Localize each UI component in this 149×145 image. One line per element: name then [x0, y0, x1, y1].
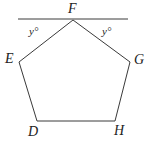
pentagon-diagram: F G H D E y° y° [0, 0, 149, 145]
vertex-label-d: D [27, 124, 38, 139]
vertex-label-e: E [4, 51, 14, 66]
vertex-label-h: H [113, 123, 125, 138]
vertex-label-f: F [67, 1, 77, 16]
vertex-label-g: G [134, 52, 144, 67]
angle-label-right: y° [101, 25, 112, 37]
angle-label-left: y° [28, 25, 39, 37]
